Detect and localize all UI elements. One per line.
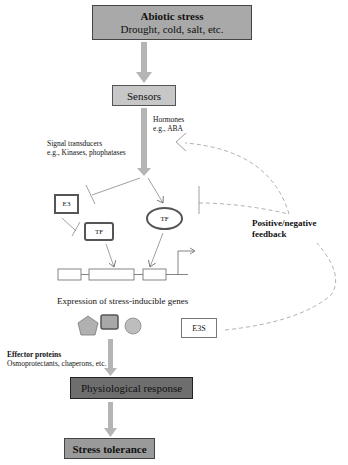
arrow-tf-box-to-gene	[106, 244, 114, 267]
physiological-response-label: Physiological response	[81, 382, 182, 394]
hormones-line1: Hormones	[153, 115, 184, 124]
effector-proteins-label: Effector proteins Osmoprotectants, chape…	[7, 350, 106, 368]
expression-label: Expression of stress-inducible genes	[57, 297, 188, 306]
stress-tolerance-label: Stress tolerance	[72, 443, 146, 455]
tf-box-label: TF	[95, 228, 103, 236]
feedback-line2: feedback	[252, 229, 317, 240]
circle-icon	[125, 318, 141, 334]
e3-label: E3	[63, 200, 71, 208]
arrow-physio-to-tolerance	[104, 402, 117, 437]
feedback-inhibit-bar	[199, 186, 289, 214]
tf-ellipse-label: TF	[160, 215, 168, 223]
tf-ellipse: TF	[146, 207, 183, 230]
feedback-curve-from-e3s	[225, 243, 336, 330]
pentagon-icon	[78, 316, 98, 335]
gene-structure	[58, 248, 195, 280]
inhibit-to-e3	[86, 178, 140, 204]
e3s-box: E3S	[181, 318, 217, 338]
sensors-label: Sensors	[127, 90, 161, 102]
tf-box: TF	[84, 222, 114, 241]
hormones-label: Hormones e.g., ABA	[153, 115, 184, 133]
rounded-square-icon	[101, 315, 118, 329]
feedback-line1: Positive/negative	[252, 218, 317, 229]
feedback-label: Positive/negative feedback	[252, 218, 317, 240]
feedback-arrow-to-hormones	[176, 133, 289, 214]
physiological-response-box: Physiological response	[70, 377, 193, 399]
signal-transducers-label: Signal transducers e.g., Kinases, phopha…	[47, 139, 126, 157]
stress-tolerance-box: Stress tolerance	[64, 438, 155, 459]
effector-title: Effector proteins	[7, 350, 106, 359]
arrow-sensors-to-branch	[137, 108, 151, 176]
signal-transducers-line1: Signal transducers	[47, 139, 126, 148]
sensors-box: Sensors	[112, 85, 176, 106]
e3-box: E3	[54, 194, 79, 214]
arrow-to-tf-ellipse	[148, 178, 163, 203]
effector-subtitle: Osmoprotectants, chaperons, etc.	[7, 359, 106, 368]
arrow-tf-ellipse-to-gene	[150, 233, 163, 267]
abiotic-stress-box: Abiotic stress Drought, cold, salt, etc.	[92, 5, 252, 40]
abiotic-stress-title: Abiotic stress	[140, 10, 203, 23]
inhibit-e3-to-tf	[62, 218, 80, 236]
abiotic-stress-subtitle: Drought, cold, salt, etc.	[121, 23, 224, 36]
signal-transducers-line2: e.g., Kinases, phophatases	[47, 148, 126, 157]
hormones-line2: e.g., ABA	[153, 124, 184, 133]
arrow-abiotic-to-sensors	[136, 42, 152, 83]
e3s-label: E3S	[192, 324, 205, 333]
